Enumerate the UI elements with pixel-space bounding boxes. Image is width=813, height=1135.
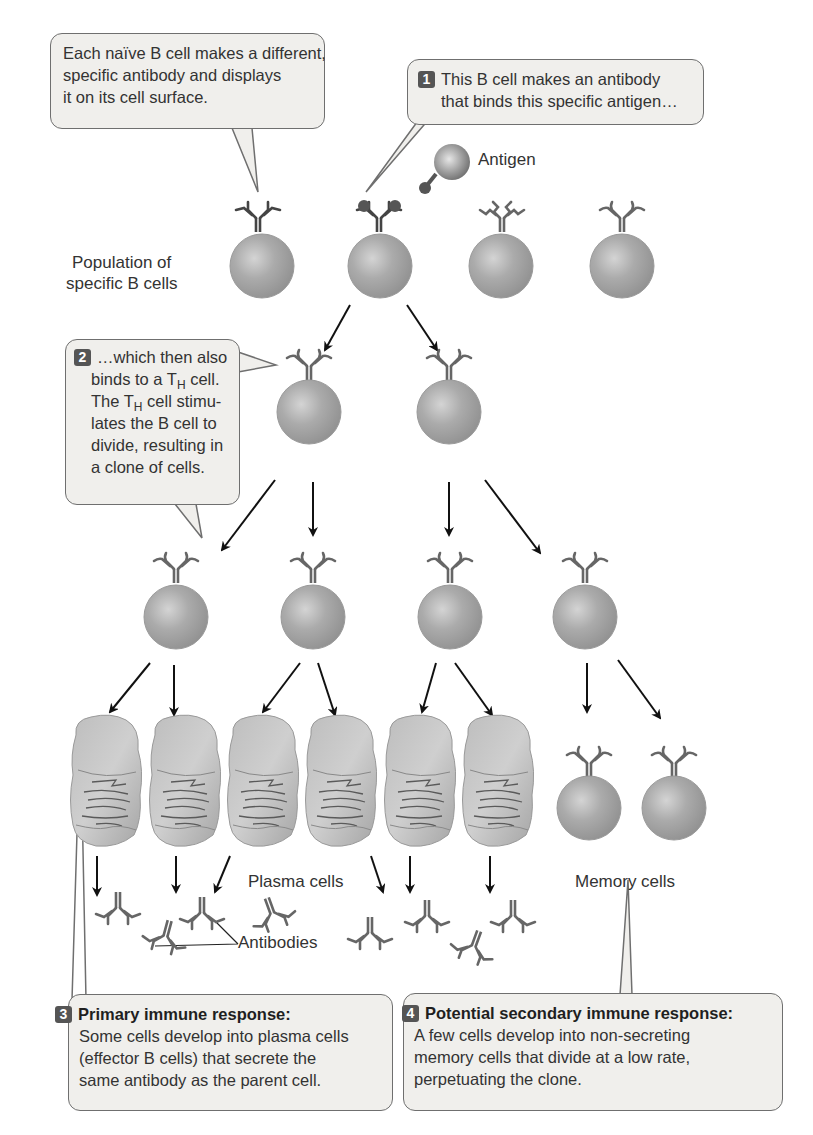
callout-step4-title: Potential secondary immune response: [425, 1004, 733, 1022]
naive-b-cell-3 [469, 202, 533, 298]
population-label-line-2: specific B cells [66, 274, 177, 294]
clonal-selection-diagram: Each naïve B cell makes a different, spe… [0, 0, 813, 1135]
callout-step3-line-3: same antibody as the parent cell. [79, 1069, 382, 1091]
naive-b-cell-4 [590, 202, 654, 298]
callout-step-3: 3Primary immune response: Some cells dev… [68, 994, 393, 1111]
callout-naive-b-cells: Each naïve B cell makes a different, spe… [50, 33, 325, 129]
callout-naive-line-2: specific antibody and displays [63, 64, 312, 86]
antigen-molecule [419, 144, 470, 194]
callout-step-2: 2…which then also binds to a TH cell. Th… [65, 339, 240, 505]
callout-step3-line-1: Some cells develop into plasma cells [79, 1025, 382, 1047]
callout-step2-line-3: The T [91, 392, 134, 410]
callout-step4-line-1: A few cells develop into non-secreting [414, 1024, 772, 1046]
callout-step4-line-2: memory cells that divide at a low rate, [414, 1046, 772, 1068]
antibodies-label: Antibodies [238, 933, 317, 953]
callout-step2-line-4: lates the B cell to [74, 412, 231, 434]
callout-naive-line-3: it on its cell surface. [63, 86, 312, 108]
plasma-cells-label: Plasma cells [248, 872, 343, 892]
callout-step3-title: Primary immune response: [78, 1005, 291, 1023]
callout-step2-line-5: divide, resulting in [74, 434, 231, 456]
callout-step4-line-3: perpetuating the clone. [414, 1068, 772, 1090]
naive-b-cell-1 [230, 202, 294, 298]
selected-b-cell [348, 200, 412, 298]
callout-step2-line-6: a clone of cells. [74, 456, 231, 478]
step-badge-1: 1 [418, 71, 435, 88]
population-label-line-1: Population of [72, 253, 171, 273]
callout-step3-line-2: (effector B cells) that secrete the [79, 1047, 382, 1069]
callout-step1-line-1: This B cell makes an antibody [441, 70, 660, 88]
callout-step-4: 4Potential secondary immune response: A … [403, 993, 783, 1111]
callout-step2-line-2: binds to a T [91, 370, 177, 388]
diagram-graphics [0, 0, 813, 1135]
callout-step1-line-2: that binds this specific antigen… [418, 90, 693, 112]
step-badge-3: 3 [55, 1006, 72, 1023]
callout-naive-line-1: Each naïve B cell makes a different, [63, 42, 312, 64]
callout-step-1: 1This B cell makes an antibody that bind… [407, 59, 704, 125]
step-badge-2: 2 [74, 349, 91, 366]
callout-step2-line-2-end: cell. [186, 370, 220, 388]
antigen-label: Antigen [478, 150, 536, 170]
callout-step2-line-3-end: cell stimu- [142, 392, 221, 410]
step-badge-4: 4 [402, 1005, 419, 1022]
memory-cells-label: Memory cells [575, 872, 675, 892]
callout-step2-line-1: …which then also [97, 348, 227, 366]
